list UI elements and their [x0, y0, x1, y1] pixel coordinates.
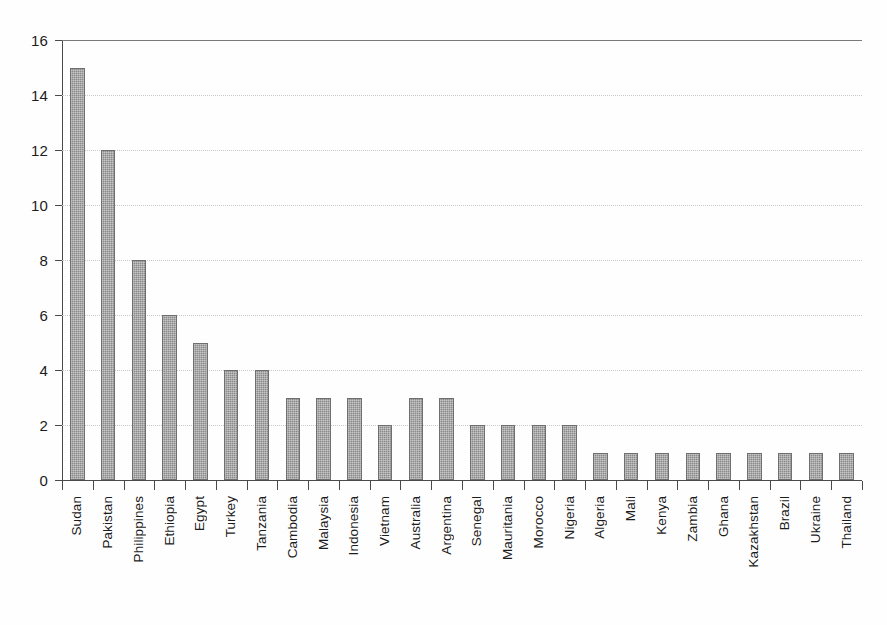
x-axis-label-text: Mauritania [493, 496, 523, 560]
bar-slot [62, 40, 93, 480]
x-tick-mark [247, 481, 248, 490]
x-axis-label: Kazakhstan [739, 496, 769, 616]
bar-slot [493, 40, 524, 480]
x-axis-label-text: Philippines [124, 496, 154, 562]
bar-slot [216, 40, 247, 480]
x-tick-mark [554, 481, 555, 490]
x-axis-label-text: Algeria [585, 496, 615, 539]
x-tick-mark [739, 481, 740, 490]
x-axis-label-text: Vietnam [370, 496, 400, 546]
y-axis-tick-labels: 0246810121416 [0, 0, 48, 625]
y-tick-label: 12 [31, 142, 48, 159]
x-axis-label-text: Turkey [216, 496, 246, 537]
y-tick-label: 14 [31, 87, 48, 104]
bar-slot [339, 40, 370, 480]
bar-slot [431, 40, 462, 480]
x-axis-label-text: Ukraine [801, 496, 831, 543]
x-axis-label: Egypt [185, 496, 215, 616]
y-tick-label: 2 [39, 417, 48, 434]
x-tick-mark [124, 481, 125, 490]
y-tick-label: 0 [39, 472, 48, 489]
x-axis-label-text: Sudan [62, 496, 92, 536]
x-axis-label: Turkey [216, 496, 246, 616]
bar-slot [154, 40, 185, 480]
x-axis-label: Pakistan [93, 496, 123, 616]
bar [255, 370, 269, 480]
bar [439, 398, 453, 481]
x-axis-label-text: Malaysia [309, 496, 339, 550]
y-tick-label: 16 [31, 32, 48, 49]
bar-slot [185, 40, 216, 480]
x-axis-label-text: Mali [616, 496, 646, 521]
bar [316, 398, 330, 481]
x-axis-label-text: Australia [401, 496, 431, 549]
x-tick-mark [831, 481, 832, 490]
x-axis-label: Malaysia [309, 496, 339, 616]
plot-area [62, 40, 862, 480]
x-tick-mark [93, 481, 94, 490]
x-tick-mark [770, 481, 771, 490]
x-axis-label: Ukraine [801, 496, 831, 616]
bar [409, 398, 423, 481]
x-axis-label: Thailand [832, 496, 862, 616]
x-axis-label: Kenya [647, 496, 677, 616]
x-axis-label-text: Tanzania [247, 496, 277, 551]
bar [532, 425, 546, 480]
x-tick-mark [708, 481, 709, 490]
bar-slot [370, 40, 401, 480]
bar-chart: 0246810121416 SudanPakistanPhilippinesEt… [0, 0, 887, 625]
bar [470, 425, 484, 480]
x-tick-mark [277, 481, 278, 490]
x-axis-label: Ethiopia [155, 496, 185, 616]
bar [224, 370, 238, 480]
bar-slot [93, 40, 124, 480]
bar [839, 453, 853, 481]
x-tick-mark [308, 481, 309, 490]
x-tick-mark [585, 481, 586, 490]
x-tick-mark [616, 481, 617, 490]
x-tick-mark [862, 481, 863, 490]
bar-slot [124, 40, 155, 480]
x-tick-mark [647, 481, 648, 490]
bar [286, 398, 300, 481]
x-axis-label: Argentina [432, 496, 462, 616]
bar-slot [770, 40, 801, 480]
x-axis-label-text: Pakistan [93, 496, 123, 549]
x-axis-label: Cambodia [278, 496, 308, 616]
bar [378, 425, 392, 480]
x-axis-label-text: Cambodia [278, 496, 308, 558]
x-axis-label-text: Senegal [462, 496, 492, 546]
x-tick-mark [216, 481, 217, 490]
bar-slot [308, 40, 339, 480]
x-axis-label: Zambia [678, 496, 708, 616]
x-tick-mark [800, 481, 801, 490]
x-tick-mark [400, 481, 401, 490]
bar-slot [277, 40, 308, 480]
bar-slot [462, 40, 493, 480]
bar [778, 453, 792, 481]
x-axis-label: Australia [401, 496, 431, 616]
x-tick-mark [185, 481, 186, 490]
y-tick-label: 10 [31, 197, 48, 214]
bar-slot [677, 40, 708, 480]
bar [70, 68, 84, 481]
x-axis-label-text: Indonesia [339, 496, 369, 555]
bar [347, 398, 361, 481]
x-tick-mark [339, 481, 340, 490]
x-tick-mark [62, 481, 63, 490]
bar [809, 453, 823, 481]
x-axis-label-text: Kenya [647, 496, 677, 535]
x-axis-label-text: Brazil [770, 496, 800, 530]
x-axis-label: Sudan [62, 496, 92, 616]
x-axis-label: Morocco [524, 496, 554, 616]
bar [132, 260, 146, 480]
x-axis-label: Algeria [585, 496, 615, 616]
x-axis-label: Philippines [124, 496, 154, 616]
bar-slot [585, 40, 616, 480]
bar-slot [739, 40, 770, 480]
bar-slot [400, 40, 431, 480]
bar-slot [831, 40, 862, 480]
x-axis-label-text: Egypt [185, 496, 215, 531]
x-tick-mark [462, 481, 463, 490]
bar-slot [800, 40, 831, 480]
